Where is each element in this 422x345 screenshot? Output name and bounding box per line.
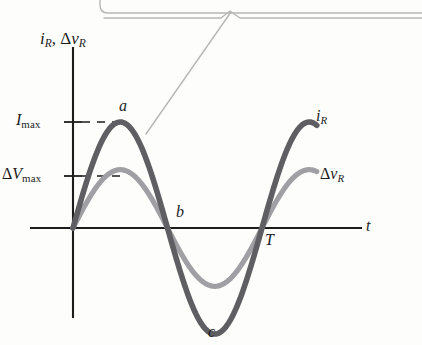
curve-label-voltage-subscript: R — [337, 172, 344, 184]
point-label-c: c — [208, 324, 215, 340]
tick-label-v-max-symbol: V — [12, 165, 22, 182]
y-axis-title-voltage-subscript: R — [79, 37, 86, 50]
y-axis-title-delta: Δ — [60, 29, 71, 48]
x-axis-label: t — [366, 218, 370, 234]
curve-label-voltage-delta: Δ — [320, 165, 330, 182]
curve-label-voltage: ΔvR — [320, 166, 344, 184]
point-label-period-t: T — [265, 232, 274, 248]
y-axis-title-voltage-symbol: v — [71, 29, 79, 48]
point-label-a: a — [119, 98, 127, 114]
curve-label-current: iR — [316, 108, 327, 126]
graph-canvas — [0, 0, 422, 345]
tick-label-i-max-subscript: max — [21, 118, 40, 130]
y-axis-title-current-subscript: R — [45, 37, 52, 50]
tick-label-v-max-subscript: max — [22, 172, 41, 184]
tick-label-v-max: ΔVmax — [2, 166, 41, 184]
callout-bubble-outline — [100, 0, 422, 134]
tick-label-v-max-delta: Δ — [2, 165, 12, 182]
figure-ac-resistor-waveforms: iR, ΔvR Imax ΔVmax a b c T t iR ΔvR — [0, 0, 422, 345]
y-axis-title: iR, ΔvR — [40, 30, 86, 50]
tick-label-i-max: Imax — [16, 112, 41, 130]
curve-label-current-subscript: R — [320, 114, 327, 126]
point-label-b: b — [176, 204, 184, 220]
